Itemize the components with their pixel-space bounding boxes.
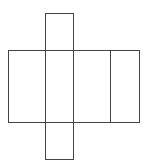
back-face xyxy=(111,51,140,123)
front-face xyxy=(46,51,74,123)
left-face xyxy=(9,51,46,123)
cuboid-net-diagram xyxy=(0,0,150,168)
top-face xyxy=(46,14,74,51)
bottom-face xyxy=(46,123,74,160)
right-face xyxy=(74,51,111,123)
